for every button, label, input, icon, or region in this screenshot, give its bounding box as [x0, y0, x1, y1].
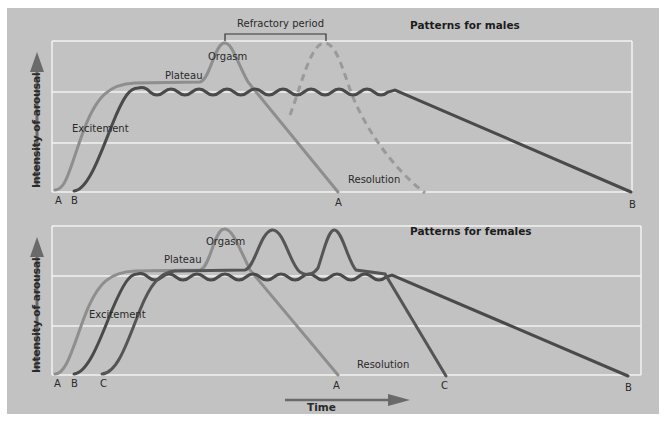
- females-title: Patterns for females: [410, 225, 532, 237]
- males-curve-a-dashed-refractory: [290, 43, 425, 193]
- sexual-response-cycle-diagram: Intensity of arousal Refractory period P…: [0, 0, 665, 427]
- males-end-b-label: B: [629, 199, 636, 210]
- females-curve-b: [74, 273, 628, 376]
- females-plateau-label: Plateau: [164, 254, 201, 265]
- females-orgasm-label: Orgasm: [206, 236, 245, 247]
- females-panel: Intensity of arousal Patterns for female…: [30, 225, 641, 413]
- females-end-a-label: A: [333, 380, 340, 391]
- males-start-a-label: A: [55, 195, 62, 206]
- males-plateau-label: Plateau: [165, 70, 202, 81]
- females-curve-c: [102, 230, 446, 376]
- males-title: Patterns for males: [410, 19, 520, 31]
- females-excitement-label: Excitement: [89, 309, 146, 320]
- males-orgasm-label: Orgasm: [208, 51, 247, 62]
- females-end-b-label: B: [625, 382, 632, 393]
- males-end-a-label: A: [335, 197, 342, 208]
- females-y-axis-label: Intensity of arousal: [30, 257, 42, 373]
- females-start-b-label: B: [71, 378, 78, 389]
- females-curve-a: [55, 229, 338, 375]
- time-axis-label: Time: [307, 401, 336, 413]
- males-y-axis-label: Intensity of arousal: [30, 72, 42, 188]
- females-start-c-label: C: [100, 378, 107, 389]
- males-resolution-label: Resolution: [348, 174, 400, 185]
- refractory-bracket: [225, 34, 326, 41]
- refractory-period-label: Refractory period: [237, 18, 324, 29]
- males-start-b-label: B: [71, 195, 78, 206]
- females-resolution-label: Resolution: [357, 359, 409, 370]
- females-start-a-label: A: [54, 378, 61, 389]
- females-end-c-label: C: [441, 380, 448, 391]
- males-curve-a: [55, 43, 338, 192]
- time-arrow-icon: [285, 394, 410, 406]
- males-panel: Intensity of arousal Refractory period P…: [30, 18, 636, 210]
- males-excitement-label: Excitement: [72, 123, 129, 134]
